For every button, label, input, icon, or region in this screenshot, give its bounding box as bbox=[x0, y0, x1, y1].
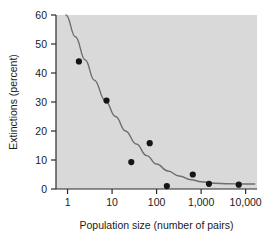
data-point bbox=[164, 183, 170, 189]
y-tick-label: 20 bbox=[35, 125, 47, 137]
y-tick-label: 0 bbox=[41, 183, 47, 195]
data-point bbox=[147, 140, 153, 146]
x-tick-label: 1,000 bbox=[188, 196, 214, 208]
y-tick-label: 60 bbox=[35, 9, 47, 21]
x-tick-label: 10 bbox=[106, 196, 118, 208]
x-tick-label: 1 bbox=[65, 196, 71, 208]
x-axis-title: Population size (number of pairs) bbox=[79, 219, 233, 231]
chart-figure: 0102030405060 1101001,00010,000 Populati… bbox=[0, 0, 273, 243]
y-tick-label: 50 bbox=[35, 38, 47, 50]
y-tick-label: 40 bbox=[35, 67, 47, 79]
x-tick-label: 10,000 bbox=[230, 196, 262, 208]
extinctions-vs-population-size-chart: 0102030405060 1101001,00010,000 Populati… bbox=[0, 0, 273, 243]
data-point bbox=[103, 97, 109, 103]
y-tick-label: 30 bbox=[35, 96, 47, 108]
plot-area-background bbox=[56, 15, 257, 189]
x-tick-label: 100 bbox=[148, 196, 166, 208]
data-point bbox=[206, 181, 212, 187]
data-point bbox=[190, 171, 196, 177]
y-axis-title: Extinctions (percent) bbox=[7, 54, 19, 150]
data-point bbox=[76, 58, 82, 64]
data-point bbox=[236, 182, 242, 188]
data-point bbox=[128, 159, 134, 165]
y-tick-label: 10 bbox=[35, 154, 47, 166]
